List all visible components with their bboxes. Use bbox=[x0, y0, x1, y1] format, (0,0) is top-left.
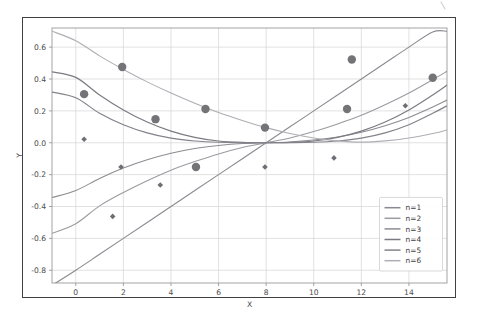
curve-n6 bbox=[52, 31, 447, 142]
y-tick-label-0: 0.6 bbox=[34, 43, 46, 52]
artifact-mark-top-right bbox=[441, 2, 445, 9]
scatter-point-diamond-3 bbox=[157, 182, 163, 188]
scatter-point-circle-1 bbox=[118, 63, 126, 71]
x-tick-label-0: 0 bbox=[73, 288, 78, 297]
scatter-point-diamond-6 bbox=[403, 103, 409, 109]
legend-label-n3[interactable]: n=3 bbox=[406, 225, 422, 234]
x-tick-label-7: 14 bbox=[404, 288, 414, 297]
x-tick-label-3: 6 bbox=[216, 288, 221, 297]
scatter-point-diamond-4 bbox=[262, 164, 268, 170]
y-tick-labels-group: 0.60.40.20.0-0.2-0.4-0.6-0.8 bbox=[31, 43, 46, 275]
scatter-point-diamond-2 bbox=[118, 164, 124, 170]
chart-canvas: 02468101214 0.60.40.20.0-0.2-0.4-0.6-0.8… bbox=[0, 0, 496, 320]
legend[interactable]: n=1n=2n=3n=4n=5n=6 bbox=[380, 197, 443, 271]
scatter-point-circle-5 bbox=[261, 123, 269, 131]
curve-n3 bbox=[52, 100, 447, 198]
scatter-point-circle-8 bbox=[429, 74, 437, 82]
legend-label-n5[interactable]: n=5 bbox=[406, 246, 422, 255]
x-tick-label-1: 2 bbox=[121, 288, 126, 297]
scatter-point-circle-7 bbox=[348, 55, 356, 63]
y-axis-title: Y bbox=[15, 153, 24, 159]
y-tick-label-4: -0.2 bbox=[31, 170, 46, 179]
scatter-point-circle-6 bbox=[343, 105, 351, 113]
y-tick-label-7: -0.8 bbox=[31, 266, 46, 275]
scatter-point-diamond-0 bbox=[81, 136, 87, 142]
scatter-points-group bbox=[80, 55, 437, 219]
y-tick-label-5: -0.4 bbox=[31, 202, 46, 211]
scatter-point-circle-0 bbox=[80, 90, 88, 98]
x-tick-labels-group: 02468101214 bbox=[73, 288, 414, 297]
scatter-point-diamond-5 bbox=[331, 155, 337, 161]
y-tick-label-1: 0.4 bbox=[34, 75, 46, 84]
x-tick-label-4: 8 bbox=[264, 288, 269, 297]
x-tick-label-2: 4 bbox=[169, 288, 174, 297]
legend-label-n6[interactable]: n=6 bbox=[406, 256, 422, 265]
scatter-point-circle-4 bbox=[192, 163, 200, 171]
curve-n5 bbox=[52, 92, 447, 143]
x-tick-label-5: 10 bbox=[309, 288, 319, 297]
y-tick-label-6: -0.6 bbox=[31, 234, 46, 243]
scatter-point-diamond-1 bbox=[110, 214, 116, 220]
x-axis-title: X bbox=[247, 300, 252, 309]
legend-label-n2[interactable]: n=2 bbox=[406, 214, 422, 223]
scatter-point-circle-2 bbox=[151, 115, 159, 123]
scatter-point-circle-3 bbox=[201, 105, 209, 113]
x-tick-label-6: 12 bbox=[357, 288, 367, 297]
legend-label-n1[interactable]: n=1 bbox=[406, 203, 422, 212]
y-tick-label-3: 0.0 bbox=[34, 139, 46, 148]
legend-label-n4[interactable]: n=4 bbox=[406, 235, 422, 244]
y-tick-label-2: 0.2 bbox=[34, 107, 46, 116]
